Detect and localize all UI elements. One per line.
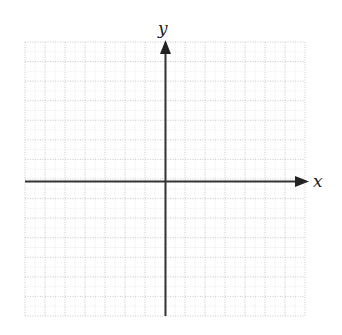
y-axis-label: y (157, 18, 168, 38)
y-axis-arrow-icon (160, 40, 171, 54)
coordinate-plane: x y (0, 0, 342, 335)
x-axis-label: x (313, 171, 323, 191)
x-axis-arrow-icon (295, 176, 309, 187)
